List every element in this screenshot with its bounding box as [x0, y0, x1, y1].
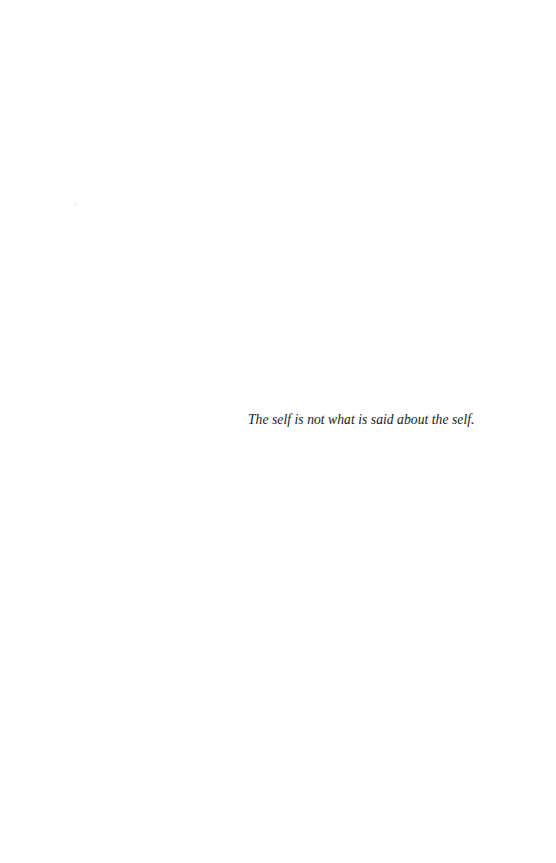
epigraph-text: The self is not what is said about the s…	[248, 412, 468, 428]
scan-artifact	[74, 203, 77, 206]
document-page: The self is not what is said about the s…	[0, 0, 556, 863]
